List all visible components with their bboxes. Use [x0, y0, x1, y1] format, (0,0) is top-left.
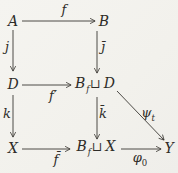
- psi-subscript: t: [151, 113, 154, 123]
- square-cup-icon: ⊔: [92, 139, 102, 154]
- psi-symbol: ψ: [141, 105, 151, 120]
- edge-label-f: f: [62, 3, 67, 16]
- edge-label-j-bar: j̄: [101, 40, 105, 53]
- phi-subscript: 0: [142, 158, 147, 168]
- commutative-diagram: A B D Bf⊔D X Bf⊔X Y f j j̄ f′ k k̄ f̄ ψt…: [0, 0, 178, 173]
- pushout-subscript: f: [88, 147, 91, 157]
- phi-symbol: φ: [133, 150, 142, 165]
- edge-label-f-prime: f′: [49, 89, 57, 102]
- pushout-left-term: B: [77, 138, 87, 154]
- edge-label-k-bar: k̄: [99, 107, 107, 120]
- node-D: D: [7, 77, 18, 91]
- node-X: X: [8, 141, 18, 155]
- edge-label-k: k: [3, 107, 11, 120]
- edge-label-psi-t: ψt: [141, 106, 155, 122]
- edge-label-j: j: [5, 40, 9, 53]
- square-cup-icon: ⊔: [90, 76, 100, 91]
- pushout-left-term: B: [75, 75, 85, 91]
- node-pushout-BfD: Bf⊔D: [75, 76, 115, 93]
- edge-label-f-bar: f̄: [54, 153, 59, 166]
- node-pushout-BfX: Bf⊔X: [77, 139, 116, 156]
- pushout-right-term: D: [104, 75, 115, 91]
- pushout-right-term: X: [105, 138, 115, 154]
- node-B: B: [99, 14, 109, 28]
- node-A: A: [8, 14, 18, 28]
- node-Y: Y: [164, 141, 173, 155]
- pushout-subscript: f: [86, 84, 89, 94]
- edge-label-phi-0: φ0: [133, 151, 148, 167]
